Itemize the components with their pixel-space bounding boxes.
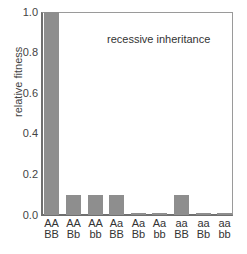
y-tick-0: 0.0 (8, 210, 38, 221)
bar (66, 195, 81, 215)
x-tick-label: aaBB (171, 218, 193, 240)
x-tick-label: AABb (63, 218, 85, 240)
x-tick-bottom: Bb (193, 229, 215, 240)
x-tick-label: aabb (214, 218, 236, 240)
x-tick-label: AAbb (85, 218, 107, 240)
y-tick-1: 0.2 (8, 169, 38, 180)
x-tick-label: AaBb (128, 218, 150, 240)
y-axis-label: relative fitness (13, 47, 24, 117)
x-tick-bottom: BB (171, 229, 193, 240)
y-tick-5: 1.0 (8, 7, 38, 18)
x-tick-bottom: BB (106, 229, 128, 240)
bar (131, 213, 146, 215)
bar (44, 12, 59, 215)
bar (152, 213, 167, 215)
y-tick-2: 0.4 (8, 128, 38, 139)
x-tick-label: Aabb (149, 218, 171, 240)
x-tick-label: AABB (41, 218, 63, 240)
x-tick-bottom: Bb (63, 229, 85, 240)
x-tick-bottom: bb (85, 229, 107, 240)
bar (88, 195, 103, 215)
x-tick-bottom: Bb (128, 229, 150, 240)
x-tick-label: AaBB (106, 218, 128, 240)
x-tick-label: aaBb (193, 218, 215, 240)
bar (109, 195, 124, 215)
x-tick-bottom: bb (149, 229, 171, 240)
bar (196, 213, 211, 215)
x-tick-bottom: bb (214, 229, 236, 240)
x-tick-bottom: BB (41, 229, 63, 240)
bar (217, 213, 232, 215)
chart-annotation: recessive inheritance (107, 33, 210, 45)
bar (174, 195, 189, 215)
